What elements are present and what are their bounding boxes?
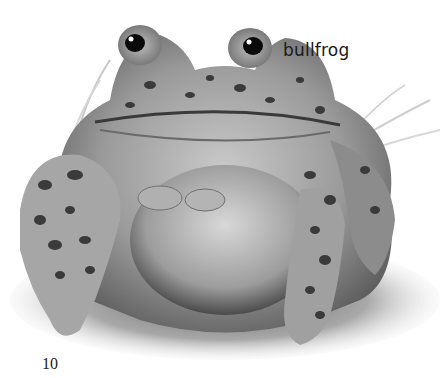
illustration-label: bullfrog — [283, 40, 349, 60]
book-page: bullfrog 10 — [0, 0, 445, 378]
bullfrog-illustration — [0, 0, 445, 378]
frog-eyes — [118, 25, 272, 68]
page-number: 10 — [42, 355, 58, 373]
